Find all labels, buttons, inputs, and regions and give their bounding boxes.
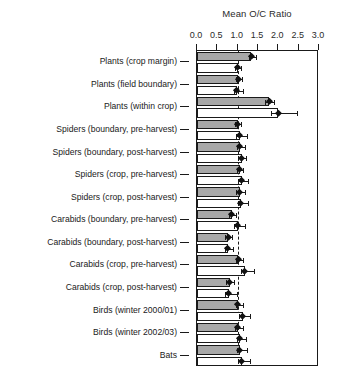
category-leader-line — [180, 242, 189, 243]
error-bar-cap — [243, 258, 244, 263]
category-leader-line — [180, 264, 189, 265]
error-bar-cap — [234, 280, 235, 285]
bar-gray — [197, 233, 228, 242]
error-bar-cap — [247, 134, 248, 139]
category-label: Bats — [160, 350, 177, 360]
error-bar-cap — [246, 156, 247, 161]
bar-white — [197, 154, 242, 163]
category-label: Plants (field boundary) — [91, 79, 177, 89]
error-bar-cap — [250, 359, 251, 364]
category-label: Carabids (boundary, post-harvest) — [47, 237, 177, 247]
data-point-marker — [236, 346, 243, 353]
error-bar-cap — [243, 326, 244, 331]
bar-white — [197, 266, 245, 275]
category-leader-line — [180, 106, 189, 107]
x-tick-label: 3.0 — [312, 30, 325, 40]
x-tick-label: 0.0 — [190, 30, 203, 40]
error-bar-cap — [271, 111, 272, 116]
category-leader-line — [180, 355, 189, 356]
x-tick-label: 1.5 — [251, 30, 264, 40]
bar-gray — [197, 323, 238, 332]
error-bar-cap — [243, 303, 244, 308]
bar-white — [197, 244, 228, 253]
category-label: Plants (crop margin) — [100, 56, 177, 66]
bar-white — [197, 108, 278, 117]
bar-gray — [197, 165, 240, 174]
category-label: Birds (winter 2000/01) — [93, 305, 177, 315]
error-bar-cap — [247, 348, 248, 353]
bar-white — [197, 221, 238, 230]
category-label: Carabids (crop, post-harvest) — [66, 282, 177, 292]
bar-gray — [197, 300, 238, 309]
error-bar-cap — [232, 235, 233, 240]
category-label: Carabids (boundary, pre-harvest) — [51, 214, 177, 224]
data-point-marker — [236, 188, 243, 195]
chart-root: Mean O/C Ratio 0.00.51.01.52.02.53.0 Pla… — [0, 0, 340, 376]
category-label: Spiders (crop, pre-harvest) — [75, 169, 177, 179]
bar-white — [197, 199, 241, 208]
category-leader-line — [180, 332, 189, 333]
x-tick-label: 1.0 — [230, 30, 243, 40]
category-leader-line — [180, 287, 189, 288]
category-label: Spiders (crop, post-harvest) — [71, 192, 177, 202]
category-leader-line — [180, 219, 189, 220]
category-leader-line — [180, 61, 189, 62]
error-bar-cap — [237, 292, 238, 297]
data-point-marker — [237, 200, 244, 207]
category-leader-line — [180, 310, 189, 311]
bar-gray — [197, 278, 230, 287]
bar-gray — [197, 142, 240, 151]
bar-gray — [197, 210, 232, 219]
error-bar-cap — [243, 168, 244, 173]
error-bar-cap — [250, 314, 251, 319]
error-bar-cap — [236, 213, 237, 218]
error-bar-cap — [243, 89, 244, 94]
error-bar-cap — [245, 190, 246, 195]
bar-white — [197, 312, 243, 321]
bar-white — [197, 357, 242, 366]
x-tick-label: 2.0 — [271, 30, 284, 40]
x-tick-mark — [318, 44, 319, 50]
bar-white — [197, 63, 238, 72]
x-tick-label: 0.5 — [210, 30, 223, 40]
error-bar-cap — [248, 179, 249, 184]
error-bar-cap — [246, 337, 247, 342]
bar-gray — [197, 187, 240, 196]
x-axis-tick-labels: 0.00.51.01.52.02.53.0 — [0, 30, 340, 42]
error-bar-cap — [297, 111, 298, 116]
data-point-marker — [238, 154, 245, 161]
category-leader-line — [180, 174, 189, 175]
bar-white — [197, 131, 240, 140]
category-label-column: Plants (crop margin)Plants (field bounda… — [0, 50, 190, 366]
bar-gray — [197, 345, 240, 354]
category-label: Spiders (boundary, pre-harvest) — [56, 124, 177, 134]
data-point-marker — [241, 267, 248, 274]
x-tick-label: 2.5 — [291, 30, 304, 40]
category-leader-line — [180, 129, 189, 130]
category-label: Birds (winter 2002/03) — [93, 327, 177, 337]
bar-gray — [197, 97, 269, 106]
plot-area — [196, 50, 318, 366]
error-bar-cap — [233, 247, 234, 252]
bar-gray — [197, 52, 251, 61]
error-bar-cap — [256, 55, 257, 60]
category-label: Plants (within crop) — [104, 101, 177, 111]
category-label: Carabids (crop, pre-harvest) — [70, 259, 177, 269]
bar-gray — [197, 75, 238, 84]
error-bar-cap — [241, 122, 242, 127]
error-bar-cap — [274, 100, 275, 105]
x-axis-title: Mean O/C Ratio — [196, 8, 318, 19]
bar-white — [197, 289, 229, 298]
category-leader-line — [180, 152, 189, 153]
bar-white — [197, 176, 242, 185]
bar-white — [197, 334, 240, 343]
bar-gray — [197, 255, 238, 264]
bar-gray — [197, 120, 238, 129]
error-bar-cap — [254, 269, 255, 274]
category-label: Spiders (boundary, post-harvest) — [52, 147, 177, 157]
category-leader-line — [180, 197, 189, 198]
category-leader-line — [180, 84, 189, 85]
error-bar-cap — [242, 77, 243, 82]
error-bar-cap — [248, 201, 249, 206]
error-bar-cap — [245, 224, 246, 229]
